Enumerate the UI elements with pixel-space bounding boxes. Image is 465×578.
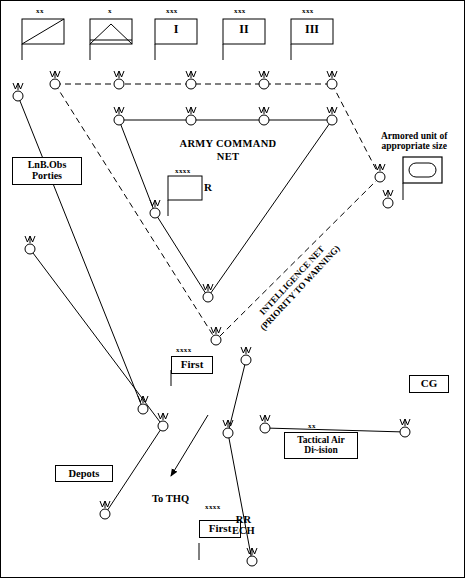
caption-armored-unit: Armored unit of appropriate size bbox=[381, 131, 447, 152]
radio-node-circle bbox=[150, 208, 160, 218]
box-cg: CG bbox=[409, 375, 449, 393]
armored-unit-line2: appropriate size bbox=[381, 141, 447, 151]
rr-ech-line1: RR bbox=[232, 514, 255, 525]
unit-symbol-brigade bbox=[90, 19, 132, 60]
radio-node-circle bbox=[114, 115, 124, 125]
radio-node-circle bbox=[223, 428, 233, 438]
radio-node-circle bbox=[13, 91, 23, 101]
echelon-mark-tactical-air: xx bbox=[308, 422, 316, 430]
flag-label-army-r: R bbox=[204, 182, 212, 194]
echelon-mark-corps-i: xxx bbox=[166, 7, 178, 15]
radio-node bbox=[259, 71, 269, 89]
radio-node bbox=[327, 71, 337, 89]
radio-node bbox=[186, 107, 196, 125]
radio-node-circle bbox=[327, 115, 337, 125]
link-cmd-left-a bbox=[119, 120, 155, 213]
radio-node bbox=[114, 107, 124, 125]
army-command-net-title-line2: NET bbox=[163, 151, 293, 162]
radio-node bbox=[158, 413, 168, 431]
radio-node-circle bbox=[383, 198, 393, 208]
echelon-mark-first-rr: xxxx bbox=[205, 503, 221, 511]
radio-node bbox=[383, 190, 393, 208]
radio-node-circle bbox=[259, 115, 269, 125]
symbol-armored-unit bbox=[403, 157, 442, 200]
communications-network-diagram: xx x xxx xxx xxx I II III ARMY COMMAND N… bbox=[0, 0, 465, 578]
radio-node bbox=[50, 71, 60, 89]
radio-node-circle bbox=[186, 115, 196, 125]
armored-unit-line1: Armored unit of bbox=[381, 131, 447, 141]
radio-node-circle bbox=[203, 292, 213, 302]
radio-node-circle bbox=[100, 509, 110, 519]
unit-label-corps-i: I bbox=[155, 23, 197, 36]
link-intel-right-upper bbox=[332, 84, 380, 177]
radio-node bbox=[259, 107, 269, 125]
echelon-mark-first-mid: xxxx bbox=[176, 346, 192, 354]
radio-node bbox=[400, 419, 410, 437]
echelon-mark-corps-iii: xxx bbox=[302, 7, 314, 15]
echelon-mark-army-r: xxxx bbox=[175, 167, 191, 175]
radio-node-circle bbox=[50, 79, 60, 89]
radio-node bbox=[25, 236, 35, 254]
radio-node-circle bbox=[138, 404, 148, 414]
unit-label-corps-ii: II bbox=[223, 23, 265, 36]
radio-node-circle bbox=[186, 79, 196, 89]
radio-node-circle bbox=[327, 79, 337, 89]
radio-node bbox=[100, 501, 110, 519]
radio-node bbox=[150, 200, 160, 218]
army-command-net-title-line1: ARMY COMMAND bbox=[163, 138, 293, 149]
diagram-border bbox=[1, 1, 465, 578]
radio-node bbox=[186, 71, 196, 89]
box-tactical-air-division: Tactical Air Di~ision bbox=[284, 432, 358, 459]
annotation-to-thq: To THQ bbox=[152, 493, 189, 504]
link-to-thq-arrow bbox=[171, 415, 208, 476]
unit-symbol-division-armored bbox=[22, 19, 64, 60]
link-bottom-descend bbox=[228, 433, 252, 561]
echelon-mark-corps-ii: xxx bbox=[234, 7, 246, 15]
diagram-canvas bbox=[0, 0, 465, 578]
link-right-descend bbox=[228, 360, 246, 433]
link-left-long-a bbox=[18, 96, 143, 409]
radio-node-circle bbox=[241, 355, 251, 365]
flag-label-first-mid: First bbox=[171, 356, 213, 374]
radio-node bbox=[247, 548, 257, 566]
radio-node-circle bbox=[211, 335, 221, 345]
radio-node-circle bbox=[260, 423, 270, 433]
radio-node bbox=[223, 420, 233, 438]
box-lnb-obs-porties: LnB.Obs Porties bbox=[12, 157, 82, 185]
radio-node-circle bbox=[25, 244, 35, 254]
tactical-air-line1: Tactical Air bbox=[290, 435, 352, 445]
radio-node-circle bbox=[247, 556, 257, 566]
radio-node bbox=[203, 284, 213, 302]
link-intel-right-lower bbox=[216, 177, 380, 340]
radio-node bbox=[211, 327, 221, 345]
lnb-obs-line2: Porties bbox=[18, 171, 76, 182]
radio-node bbox=[138, 396, 148, 414]
radio-node bbox=[375, 164, 385, 182]
radio-node bbox=[114, 71, 124, 89]
radio-node bbox=[241, 347, 251, 365]
echelon-mark-division: xx bbox=[36, 7, 44, 15]
radio-node-circle bbox=[400, 427, 410, 437]
radio-node-circle bbox=[158, 421, 168, 431]
radio-node-circle bbox=[259, 79, 269, 89]
radio-node bbox=[13, 83, 23, 101]
radio-node-circle bbox=[375, 172, 385, 182]
tactical-air-line2: Di~ision bbox=[290, 445, 352, 455]
label-rr-ech: RR ECH bbox=[232, 514, 255, 537]
unit-label-corps-iii: III bbox=[291, 23, 333, 36]
flag-army-r bbox=[168, 176, 202, 216]
radio-node bbox=[260, 415, 270, 433]
radio-node-circle bbox=[114, 79, 124, 89]
echelon-mark-brigade: x bbox=[108, 7, 112, 15]
radio-node bbox=[327, 107, 337, 125]
box-depots: Depots bbox=[55, 465, 113, 482]
rr-ech-line2: ECH bbox=[232, 525, 255, 536]
